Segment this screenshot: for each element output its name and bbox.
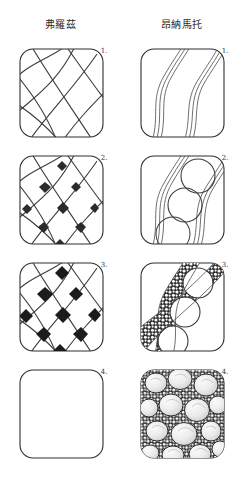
tile-florz-3 xyxy=(19,262,104,352)
steps-grid: 1. xyxy=(0,40,242,468)
step-row-2: 2. xyxy=(0,147,242,254)
tile-florz-2 xyxy=(19,155,104,245)
tile-florz-4 xyxy=(19,369,104,459)
tile-florz-1 xyxy=(19,48,104,138)
cell-florz-step-2[interactable]: 2. xyxy=(0,147,121,254)
tile-onamato-3 xyxy=(140,262,225,352)
column-header-right: 昂納馬托 xyxy=(121,18,242,40)
cell-onamato-step-3[interactable]: 3. xyxy=(121,254,242,361)
tile-onamato-1 xyxy=(140,48,225,138)
cell-florz-step-4[interactable]: 4. xyxy=(0,361,121,468)
cell-onamato-step-2[interactable]: 2. xyxy=(121,147,242,254)
column-headers: 弗羅茲 昂納馬托 xyxy=(0,0,242,40)
step-row-1: 1. xyxy=(0,40,242,147)
column-header-left: 弗羅茲 xyxy=(0,18,121,40)
tile-onamato-4 xyxy=(140,369,225,459)
zentangle-instruction-sheet: 弗羅茲 昂納馬托 1. xyxy=(0,0,242,503)
cell-florz-step-3[interactable]: 3. xyxy=(0,254,121,361)
cell-onamato-step-4[interactable]: 4. xyxy=(121,361,242,468)
step-row-4: 4. 4. xyxy=(0,361,242,468)
cell-florz-step-1[interactable]: 1. xyxy=(0,40,121,147)
step-row-3: 3. xyxy=(0,254,242,361)
cell-onamato-step-1[interactable]: 1. xyxy=(121,40,242,147)
tile-onamato-2 xyxy=(140,155,225,245)
